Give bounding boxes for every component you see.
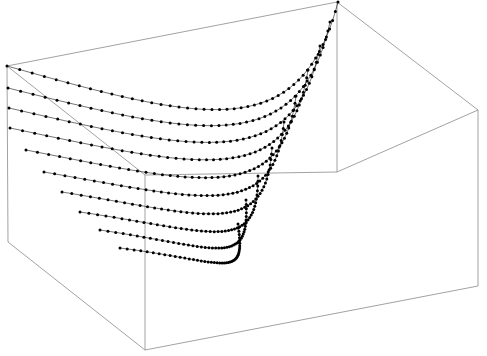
data-point [254, 201, 257, 204]
data-point [180, 227, 183, 230]
trajectory-curve-2 [7, 21, 332, 128]
trajectory-line [80, 176, 258, 232]
data-point [280, 106, 283, 109]
data-point [210, 108, 213, 111]
data-point [245, 203, 248, 206]
data-point [245, 215, 248, 218]
data-point [63, 174, 66, 177]
data-point [216, 261, 219, 264]
data-point [217, 247, 220, 250]
data-point [310, 63, 313, 66]
data-point [167, 209, 170, 212]
data-point [283, 137, 286, 140]
data-point [43, 171, 46, 174]
data-point [140, 152, 143, 155]
data-point [295, 109, 298, 112]
data-point [271, 97, 274, 100]
trajectory-curve-6 [43, 121, 286, 198]
data-point [100, 90, 103, 93]
data-point [179, 256, 182, 259]
data-point [239, 122, 242, 125]
data-point [270, 127, 273, 130]
data-point [155, 238, 158, 241]
data-point [121, 95, 124, 98]
data-point [33, 132, 36, 135]
data-point [137, 187, 140, 190]
data-point [19, 90, 22, 93]
data-point [141, 117, 144, 120]
data-point [226, 108, 229, 111]
data-point [150, 119, 153, 122]
data-point [90, 125, 93, 128]
data-point [153, 172, 156, 175]
data-point [248, 136, 251, 139]
data-point [259, 132, 262, 135]
data-point [211, 246, 214, 249]
data-point [25, 149, 28, 152]
data-point [310, 75, 313, 78]
trajectory-line [10, 70, 308, 160]
data-point [20, 109, 23, 112]
data-point [261, 162, 264, 165]
data-point [160, 208, 163, 211]
data-point [256, 180, 259, 183]
data-point [262, 185, 265, 188]
data-point [337, 1, 340, 4]
data-point [279, 121, 282, 124]
data-point [110, 93, 113, 96]
data-point [69, 157, 72, 160]
data-point [281, 133, 284, 136]
data-point [133, 248, 136, 251]
data-point [291, 115, 294, 118]
data-point [158, 252, 161, 255]
data-point [207, 260, 210, 263]
data-point [245, 199, 248, 202]
data-point [206, 194, 209, 197]
data-point [127, 168, 130, 171]
data-point [263, 146, 266, 149]
data-point [318, 50, 321, 53]
data-point [218, 108, 221, 111]
data-point [255, 193, 258, 196]
data-point [253, 205, 256, 208]
data-point [131, 97, 134, 100]
data-point [130, 151, 133, 154]
data-point [120, 217, 123, 220]
box-wireframe [7, 2, 478, 350]
data-point [217, 230, 220, 233]
data-point [156, 223, 159, 226]
data-point [136, 235, 139, 238]
data-point [160, 103, 163, 106]
data-point [244, 171, 247, 174]
data-point [136, 170, 139, 173]
data-point [150, 136, 153, 139]
data-point [177, 106, 180, 109]
data-point [122, 232, 125, 235]
data-point [203, 260, 206, 263]
data-point [158, 155, 161, 158]
data-point [202, 124, 205, 127]
data-point [131, 203, 134, 206]
data-point [205, 158, 208, 161]
data-point [220, 230, 223, 233]
data-point [67, 101, 70, 104]
data-point [269, 158, 272, 161]
data-point [145, 171, 148, 174]
data-point [289, 99, 292, 102]
data-point [200, 259, 203, 262]
data-point [31, 72, 34, 75]
data-point [302, 91, 305, 94]
data-point [227, 193, 230, 196]
data-point [271, 163, 274, 166]
data-point [215, 141, 218, 144]
data-point [295, 95, 298, 98]
data-point [257, 117, 260, 120]
data-point [106, 198, 109, 201]
data-point [224, 230, 227, 233]
data-point [113, 216, 116, 219]
data-point [44, 96, 47, 99]
data-point [149, 222, 152, 225]
data-point [233, 173, 236, 176]
data-point [272, 140, 275, 143]
trajectory-line [44, 122, 284, 196]
